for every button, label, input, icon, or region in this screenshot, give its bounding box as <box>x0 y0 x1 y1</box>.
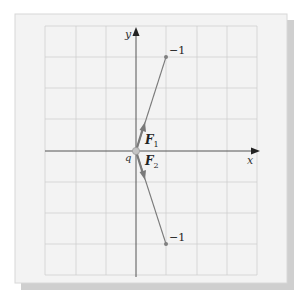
lower-charge-dot <box>164 242 168 246</box>
origin-charge-dot <box>132 147 139 154</box>
x-axis-label: x <box>247 154 254 167</box>
lower-charge-label: −1 <box>169 231 185 244</box>
upper-charge-label: −1 <box>169 44 185 57</box>
origin-charge-label: q <box>125 152 131 163</box>
y-axis-label: y <box>124 28 132 41</box>
figure-frame <box>15 14 287 283</box>
upper-charge-dot <box>164 55 168 59</box>
coulomb-force-diagram: x y −1 −1 q F1 F2 <box>0 0 302 296</box>
